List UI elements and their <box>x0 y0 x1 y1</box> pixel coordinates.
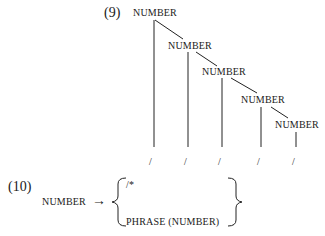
branch-3-4 <box>231 78 257 93</box>
right-brace <box>228 178 242 226</box>
example-9-label: (9) <box>104 5 121 21</box>
tree-node-3: NUMBER <box>202 66 246 77</box>
rule-option-2: PHRASE (NUMBER) <box>126 216 219 228</box>
terminal-1: / <box>149 156 152 167</box>
tree-node-1: NUMBER <box>133 7 177 18</box>
rule-option-1: /* <box>126 179 134 190</box>
terminal-3: / <box>218 156 221 167</box>
branch-2-3 <box>196 52 217 66</box>
rule-lhs: NUMBER <box>42 196 86 207</box>
terminal-2: / <box>184 156 187 167</box>
branch-1-2 <box>155 20 183 39</box>
tree-node-4: NUMBER <box>241 94 285 105</box>
terminal-4: / <box>257 156 260 167</box>
branch-4-5 <box>271 107 288 118</box>
terminal-5: / <box>292 156 295 167</box>
rule-arrow: → <box>92 193 106 208</box>
left-brace <box>112 178 126 226</box>
tree-diagram: (9) NUMBER NUMBER NUMBER NUMBER NUMBER /… <box>0 0 325 236</box>
tree-node-5: NUMBER <box>275 119 319 130</box>
example-10-label: (10) <box>8 179 32 195</box>
tree-node-2: NUMBER <box>168 40 212 51</box>
